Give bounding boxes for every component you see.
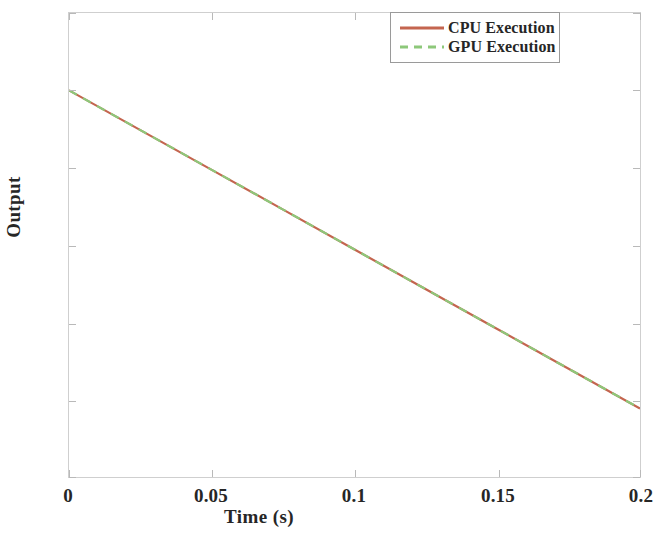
series-lines (69, 13, 640, 477)
y-tick-mark (69, 13, 76, 14)
plot-area (68, 12, 641, 478)
x-tick-label: 0.05 (181, 486, 241, 505)
y-tick-mark (69, 90, 76, 91)
y-tick-mark (69, 246, 76, 247)
x-tick-mark (212, 470, 213, 477)
y-tick-mark (69, 324, 76, 325)
x-axis-title: Time (s) (0, 506, 586, 528)
y-tick-mark (633, 90, 640, 91)
legend-item-gpu-execution: GPU Execution (399, 37, 551, 56)
x-tick-mark (69, 470, 70, 477)
y-tick-mark (633, 13, 640, 14)
x-tick-mark (69, 13, 70, 20)
x-tick-mark (640, 13, 641, 20)
legend-label: CPU Execution (448, 19, 555, 37)
legend-label: GPU Execution (448, 38, 556, 56)
y-tick-mark (633, 168, 640, 169)
y-tick-mark (69, 477, 76, 478)
figure-canvas: Output 1.1 1.05 1 0.95 0.9 0.85 0.8 0 0.… (0, 0, 654, 537)
x-tick-label: 0.1 (324, 486, 384, 505)
y-tick-mark (633, 477, 640, 478)
y-tick-mark (633, 324, 640, 325)
y-tick-mark (69, 168, 76, 169)
x-tick-mark (640, 470, 641, 477)
y-tick-mark (69, 401, 76, 402)
legend: CPU Execution GPU Execution (390, 12, 560, 63)
x-tick-label: 0.2 (611, 486, 654, 505)
x-tick-mark (499, 470, 500, 477)
x-tick-label: 0.15 (468, 486, 528, 505)
x-tick-label: 0 (38, 486, 98, 505)
y-axis-title: Output (3, 147, 25, 267)
legend-line-icon-solid (399, 23, 445, 33)
legend-item-cpu-execution: CPU Execution (399, 18, 551, 37)
x-tick-mark (355, 13, 356, 20)
y-tick-mark (633, 246, 640, 247)
y-tick-mark (633, 401, 640, 402)
x-tick-mark (212, 13, 213, 20)
legend-line-icon-dashed (399, 42, 445, 52)
x-tick-mark (355, 470, 356, 477)
